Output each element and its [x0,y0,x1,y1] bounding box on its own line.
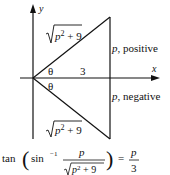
upper-radicand: p2 + 9 [54,29,82,42]
numerator: p [78,146,85,158]
adjacent-label: 3 [80,65,86,77]
rhs-denominator: 3 [131,162,137,174]
lower-angle-label: θ [48,80,53,92]
denominator-radicand: p2 + 9 [71,164,96,175]
x-axis-arrow-icon [151,75,160,81]
close-paren: ) [106,146,113,171]
trig-substitution-diagram: y x p2 + 9 θ 3 p, positive θ p, negative… [0,0,170,175]
tan-func: tan [2,152,16,164]
opposite-negative-label: p, negative [111,90,160,102]
open-paren: ( [22,146,29,171]
upper-hypotenuse-label: p2 + 9 [46,25,82,43]
upper-angle-label: θ [48,65,53,77]
lower-hypotenuse-label: p2 + 9 [46,121,82,137]
upper-hypotenuse [33,17,110,78]
equation: tan ( sin −1 p p2 + 9 ) = p 3 [2,146,139,175]
inverse-superscript: −1 [50,150,58,158]
opposite-positive-label: p, positive [111,42,158,54]
x-axis-label: x [151,63,157,74]
y-axis-label: y [38,3,44,14]
y-axis-arrow-icon [30,4,36,13]
lower-radicand: p2 + 9 [54,123,82,136]
sin-func: sin [31,152,44,164]
rhs-numerator: p [130,146,137,158]
equals-sign: = [118,152,124,164]
